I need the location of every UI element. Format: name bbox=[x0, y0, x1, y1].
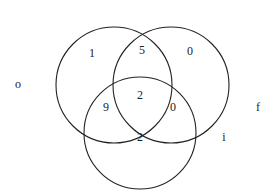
region-o-and-f: 5 bbox=[139, 44, 145, 56]
set-label-f: f bbox=[256, 101, 260, 113]
region-f-and-i: 0 bbox=[170, 101, 176, 113]
set-label-i: i bbox=[222, 131, 225, 143]
region-o-and-i: 9 bbox=[103, 101, 109, 113]
region-o-f-i: 2 bbox=[137, 89, 143, 101]
circle-f bbox=[113, 27, 229, 143]
region-o-only: 1 bbox=[89, 47, 95, 59]
region-i-only: 2 bbox=[137, 131, 143, 143]
circle-o bbox=[56, 27, 172, 143]
region-f-only: 0 bbox=[187, 45, 193, 57]
set-label-o: o bbox=[15, 78, 21, 90]
